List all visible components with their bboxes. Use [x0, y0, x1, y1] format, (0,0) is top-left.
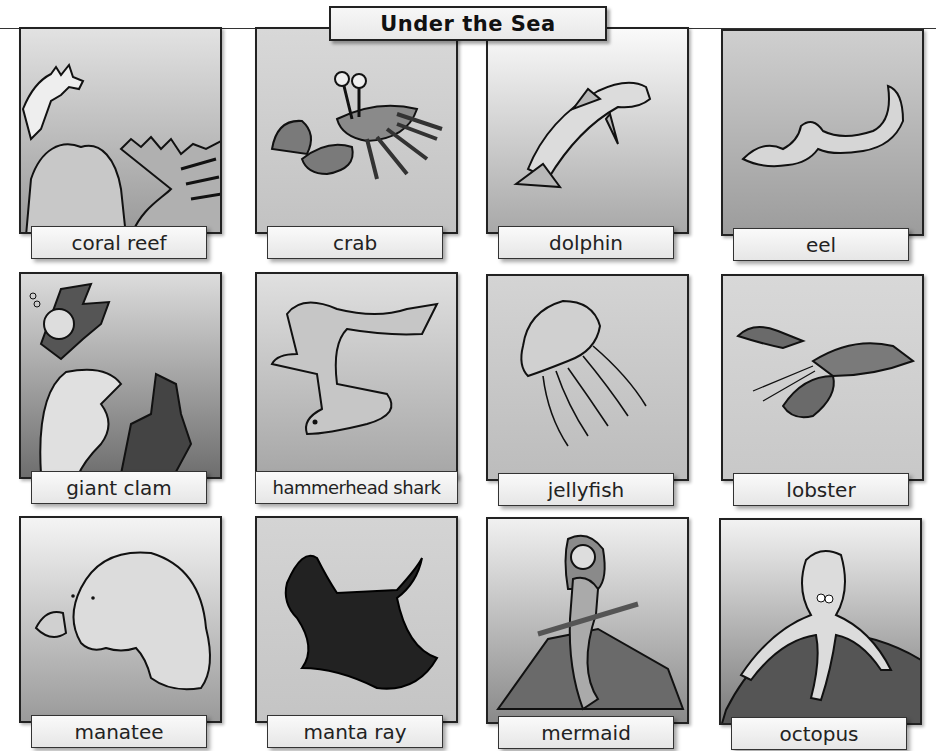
- card-dolphin: dolphin: [486, 27, 689, 234]
- card-label: jellyfish: [498, 473, 674, 506]
- page-title: Under the Sea: [329, 6, 607, 41]
- dolphin-icon: [488, 29, 689, 234]
- coral-reef-icon: [21, 29, 222, 234]
- card-panel: [721, 274, 924, 481]
- page-title-text: Under the Sea: [380, 12, 556, 36]
- card-crab: crab: [255, 27, 458, 234]
- card-label: giant clam: [31, 471, 207, 504]
- manatee-icon: [21, 518, 222, 723]
- card-giant-clam: giant clam: [19, 272, 222, 479]
- card-panel: [486, 274, 689, 481]
- card-panel: [19, 27, 222, 234]
- card-label: dolphin: [498, 226, 674, 259]
- jellyfish-icon: [488, 276, 689, 481]
- eel-icon: [723, 31, 924, 236]
- octopus-icon: [721, 520, 922, 725]
- card-panel: [19, 516, 222, 723]
- card-panel: [255, 27, 458, 234]
- card-label: eel: [733, 228, 909, 261]
- card-jellyfish: jellyfish: [486, 274, 689, 481]
- crab-icon: [257, 29, 458, 234]
- giant-clam-icon: [21, 274, 222, 479]
- card-hammerhead-shark: hammerhead shark: [255, 272, 458, 479]
- mermaid-icon: [488, 519, 689, 724]
- card-octopus: octopus: [719, 518, 922, 725]
- card-label: manatee: [31, 715, 207, 748]
- card-label: mermaid: [498, 716, 674, 749]
- card-mermaid: mermaid: [486, 517, 689, 724]
- hammerhead-shark-icon: [257, 274, 458, 479]
- card-label: crab: [267, 226, 443, 259]
- lobster-icon: [723, 276, 924, 481]
- manta-ray-icon: [257, 518, 458, 723]
- card-coral-reef: coral reef: [19, 27, 222, 234]
- card-eel: eel: [721, 29, 924, 236]
- card-panel: [721, 29, 924, 236]
- card-panel: [486, 27, 689, 234]
- card-label: lobster: [733, 473, 909, 506]
- card-panel: [255, 516, 458, 723]
- card-panel: [719, 518, 922, 725]
- card-lobster: lobster: [721, 274, 924, 481]
- card-panel: [19, 272, 222, 479]
- card-label: coral reef: [31, 226, 207, 259]
- card-label: manta ray: [267, 715, 443, 748]
- card-label: hammerhead shark: [255, 471, 458, 504]
- card-label: octopus: [731, 717, 907, 750]
- card-panel: [255, 272, 458, 479]
- card-panel: [486, 517, 689, 724]
- card-manta-ray: manta ray: [255, 516, 458, 723]
- card-manatee: manatee: [19, 516, 222, 723]
